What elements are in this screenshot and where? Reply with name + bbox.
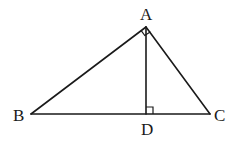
segment-ac — [146, 27, 210, 114]
label-c: C — [214, 106, 225, 125]
right-angle-mark-d-icon — [146, 107, 153, 114]
segment-ab — [31, 27, 146, 114]
label-d: D — [141, 120, 153, 139]
label-b: B — [13, 106, 24, 125]
triangle-diagram: A B C D — [0, 0, 242, 142]
label-a: A — [140, 5, 153, 24]
